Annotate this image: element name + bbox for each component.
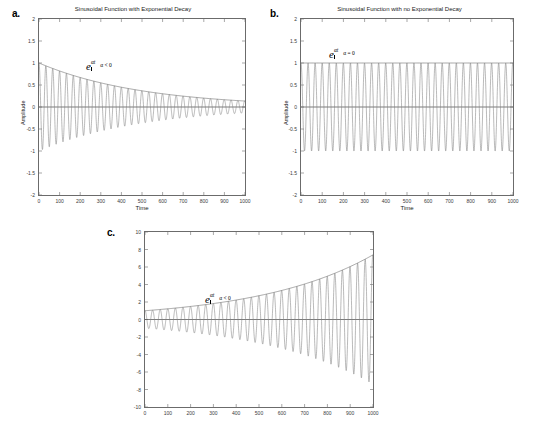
ytick-label: -1	[278, 148, 297, 154]
ytick-label: -0.5	[16, 126, 35, 132]
ytick-label: 1.5	[16, 38, 35, 44]
ytick-label: -4	[122, 352, 141, 358]
ytick-label: -0.5	[278, 126, 297, 132]
ytick-label: -8	[122, 387, 141, 393]
xtick-label: 200	[76, 198, 84, 204]
ytick-label: 0.5	[16, 82, 35, 88]
panel-c: c. -10-8-6-4-20246810 010020030040050060…	[100, 215, 430, 433]
xtick-label: 100	[164, 410, 172, 416]
ytick-label: 0	[122, 317, 141, 323]
xtick-label: 700	[179, 198, 187, 204]
panel-a-ylabel: Amplitude	[20, 101, 26, 125]
panel-a-annotation-exponent: αt	[91, 59, 95, 65]
xtick-label: 400	[232, 410, 240, 416]
xtick-label: 800	[323, 410, 331, 416]
ytick-label: 1	[16, 60, 35, 66]
xtick-label: 600	[424, 198, 432, 204]
ytick-label: -1.5	[278, 170, 297, 176]
ytick-label: 1	[278, 60, 297, 66]
ytick-label: 2	[16, 16, 35, 22]
xtick-label: 0	[144, 410, 147, 416]
panel-c-axes	[144, 231, 374, 408]
xtick-label: 1000	[507, 198, 518, 204]
panel-b-ylabel: Amplitude	[283, 101, 289, 125]
panel-b: b. Sinusoidal Function with no Exponenti…	[266, 0, 533, 220]
ytick-label: 1.5	[278, 38, 297, 44]
xtick-label: 900	[220, 198, 228, 204]
xtick-label: 500	[403, 198, 411, 204]
panel-c-annotation: eαtα < 0	[205, 289, 231, 307]
panel-b-title: Sinusoidal Function with no Exponential …	[266, 6, 533, 12]
panel-c-label: c.	[107, 227, 115, 238]
xtick-label: 300	[209, 410, 217, 416]
xtick-label: 500	[255, 410, 263, 416]
ytick-label: 2	[122, 299, 141, 305]
xtick-label: 1000	[239, 198, 250, 204]
xtick-label: 700	[300, 410, 308, 416]
xtick-label: 600	[158, 198, 166, 204]
ytick-label: -10	[122, 404, 141, 410]
panel-a-annotation-condition: α < 0	[100, 62, 111, 68]
xtick-label: 700	[445, 198, 453, 204]
ytick-label: -6	[122, 369, 141, 375]
panel-a-xlabel: Time	[38, 205, 246, 211]
panel-a-axes	[38, 18, 246, 196]
xtick-label: 300	[360, 198, 368, 204]
panel-b-annotation-exponent: αt	[334, 47, 338, 53]
ytick-label: 6	[122, 264, 141, 270]
xtick-label: 400	[382, 198, 390, 204]
panel-a-title: Sinusoidal Function with Exponential Dec…	[0, 6, 266, 12]
ytick-label: -1	[16, 148, 35, 154]
xtick-label: 800	[466, 198, 474, 204]
panel-a: a. Sinusoidal Function with Exponential …	[0, 0, 266, 220]
panel-a-annotation: eαtα < 0	[86, 56, 112, 74]
panel-b-annotation-pointer	[334, 55, 335, 59]
panel-c-annotation-condition: α < 0	[219, 295, 230, 301]
panel-a-annotation-pointer	[91, 67, 92, 71]
xtick-label: 200	[186, 410, 194, 416]
xtick-label: 100	[318, 198, 326, 204]
ytick-label: -2	[122, 334, 141, 340]
xtick-label: 600	[278, 410, 286, 416]
panel-b-annotation: eαtα = 0	[329, 44, 355, 62]
panel-c-plot-area	[145, 232, 373, 407]
ytick-label: -2	[16, 192, 35, 198]
ytick-label: 10	[122, 229, 141, 235]
xtick-label: 400	[117, 198, 125, 204]
xtick-label: 300	[97, 198, 105, 204]
xtick-label: 0	[38, 198, 41, 204]
ytick-label: -2	[278, 192, 297, 198]
xtick-label: 800	[200, 198, 208, 204]
xtick-label: 1000	[367, 410, 378, 416]
xtick-label: 900	[488, 198, 496, 204]
ytick-label: 2	[278, 16, 297, 22]
ytick-label: 4	[122, 282, 141, 288]
panel-a-plot-area	[39, 19, 245, 195]
xtick-label: 0	[300, 198, 303, 204]
ytick-label: -1.5	[16, 170, 35, 176]
panel-c-annotation-exponent: αt	[210, 292, 214, 298]
xtick-label: 500	[138, 198, 146, 204]
panel-c-annotation-pointer	[210, 300, 211, 304]
panel-b-xlabel: Time	[300, 205, 514, 211]
panel-b-annotation-condition: α = 0	[343, 50, 354, 56]
xtick-label: 200	[339, 198, 347, 204]
xtick-label: 100	[55, 198, 63, 204]
ytick-label: 8	[122, 247, 141, 253]
ytick-label: 0.5	[278, 82, 297, 88]
xtick-label: 900	[346, 410, 354, 416]
